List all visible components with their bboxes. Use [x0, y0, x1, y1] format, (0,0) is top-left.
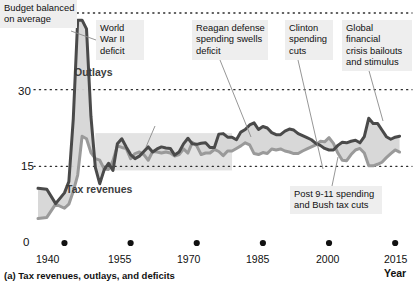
series-label-tax-revenues: Tax revenues — [66, 183, 132, 195]
x-axis-title: Year — [384, 267, 406, 279]
chart-container: 45 30 15 0 1940 1955 1970 1985 2000 2015… — [0, 0, 415, 284]
x-tick-1985: 1985 — [246, 253, 269, 265]
y-tick-30: 30 — [18, 85, 31, 97]
x-tick-dot-1955 — [128, 240, 134, 246]
annotation-post-911-spending: Post 9-11 spending and Bush tax cuts — [290, 186, 382, 214]
figure-caption: (a) Tax revenues, outlays, and deficits — [4, 270, 175, 281]
x-tick-dot-1970 — [194, 240, 200, 246]
annotation-global-financial-crisis: Global financial crisis bailouts and sti… — [342, 20, 412, 71]
x-tick-2000: 2000 — [316, 253, 339, 265]
x-tick-1940: 1940 — [36, 253, 59, 265]
annotation-reagan-defense-spending: Reagan defense spending swells deficit — [192, 20, 268, 60]
x-tick-2015: 2015 — [384, 253, 407, 265]
y-tick-15: 15 — [21, 160, 34, 172]
annotation-budget-balanced: Budget balanced on average — [0, 0, 77, 28]
x-tick-dot-1985 — [260, 240, 266, 246]
series-label-outlays: Outlays — [74, 66, 113, 78]
x-tick-1970: 1970 — [177, 253, 200, 265]
leader-line-post911 — [332, 157, 338, 186]
x-tick-dot-2000 — [326, 240, 332, 246]
annotation-clinton-spending-cuts: Clinton spending cuts — [285, 20, 333, 60]
x-tick-dot-1940 — [61, 240, 67, 246]
y-tick-0: 0 — [23, 236, 29, 248]
x-tick-dot-2015 — [392, 240, 398, 246]
x-tick-1955: 1955 — [108, 253, 131, 265]
leader-line-reagan — [220, 60, 251, 137]
annotation-world-war-ii-deficit: World War II deficit — [96, 20, 144, 60]
